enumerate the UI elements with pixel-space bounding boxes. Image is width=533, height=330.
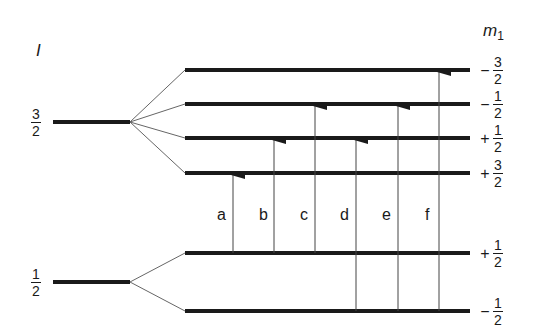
label-I-1-2: 12 — [31, 267, 41, 298]
transition-label-e: e — [382, 206, 391, 224]
transition-label-d: d — [340, 206, 349, 224]
label-I-3-2: 32 — [31, 107, 41, 138]
sign: + — [479, 165, 491, 183]
transition-label-f: f — [425, 206, 429, 224]
label-m1: m1 — [483, 22, 504, 42]
sign: − — [479, 303, 491, 321]
frac-den: 2 — [494, 71, 502, 86]
frac-num: 3 — [493, 55, 503, 71]
label-m-minus-3-2: − 32 — [479, 55, 503, 86]
frac-den: 2 — [32, 283, 40, 298]
frac-den: 2 — [32, 123, 40, 138]
transition-arrows — [233, 72, 439, 311]
transition-label-c: c — [300, 206, 308, 224]
sign: + — [479, 130, 491, 148]
transition-label-b: b — [259, 206, 268, 224]
frac-den: 2 — [494, 254, 502, 269]
sign: − — [479, 62, 491, 80]
frac-num: 1 — [31, 267, 41, 283]
split-connectors — [130, 70, 185, 311]
label-m-plus-1-2: + 12 — [479, 123, 503, 154]
transition-label-a: a — [217, 206, 226, 224]
label-I: I — [36, 42, 41, 59]
frac-num: 1 — [493, 123, 503, 139]
frac-den: 2 — [494, 174, 502, 189]
frac-num: 3 — [31, 107, 41, 123]
sublevels — [185, 70, 470, 311]
frac-den: 2 — [494, 105, 502, 120]
frac-den: 2 — [494, 139, 502, 154]
frac-den: 2 — [494, 312, 502, 327]
sign: − — [479, 96, 491, 114]
label-m-lower-plus-1-2: + 12 — [479, 238, 503, 269]
label-m-lower-minus-1-2: − 12 — [479, 296, 503, 327]
frac-num: 1 — [493, 238, 503, 254]
frac-num: 1 — [493, 89, 503, 105]
frac-num: 3 — [493, 158, 503, 174]
label-m: m — [483, 21, 497, 40]
label-m-minus-1-2: − 12 — [479, 89, 503, 120]
label-m-sub: 1 — [497, 29, 504, 43]
label-m-plus-3-2: + 32 — [479, 158, 503, 189]
energy-level-diagram — [0, 0, 533, 330]
frac-num: 1 — [493, 296, 503, 312]
sign: + — [479, 245, 491, 263]
